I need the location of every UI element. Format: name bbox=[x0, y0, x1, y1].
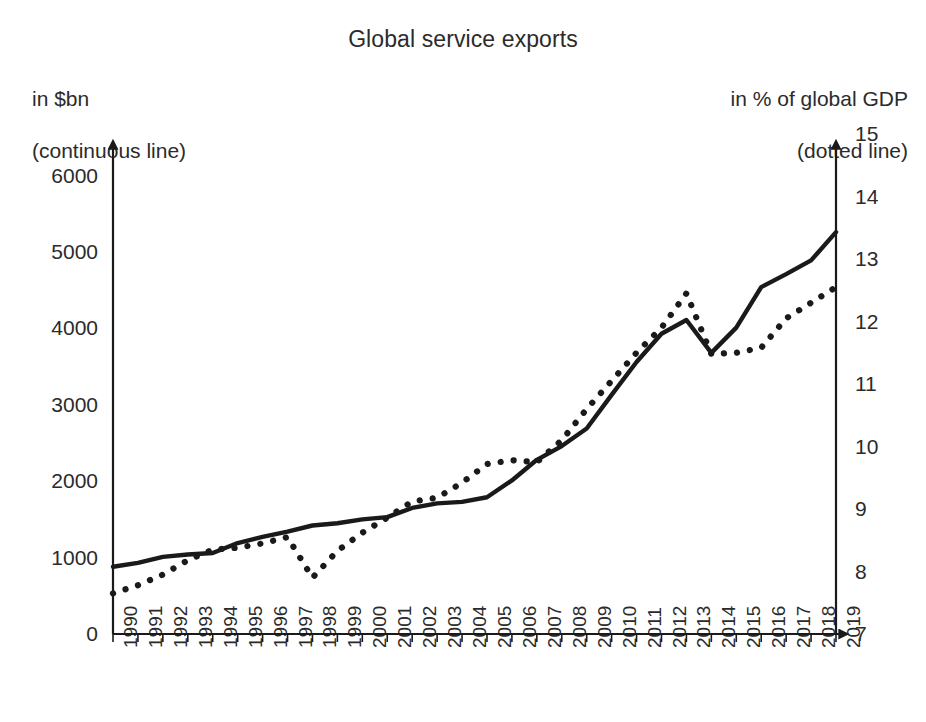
series-line-continuous bbox=[113, 232, 836, 567]
x-axis-ticks bbox=[113, 634, 836, 642]
series-line-dotted bbox=[113, 287, 836, 593]
plot-area bbox=[0, 0, 926, 722]
chart-container: Global service exports in $bn (continuou… bbox=[0, 0, 926, 722]
